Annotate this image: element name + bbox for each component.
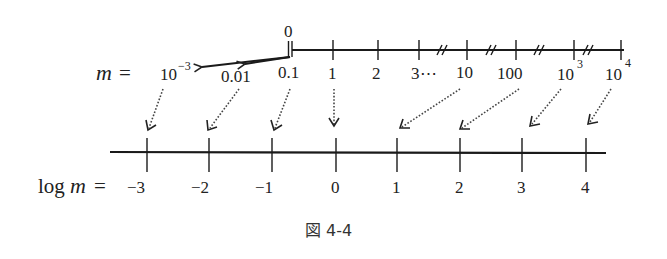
bottom-axis-log-m: log m = −3 −2 −1 0 1 2 3 4 xyxy=(38,138,606,198)
label-0: 0 xyxy=(331,178,340,197)
label-0.01: 0.01 xyxy=(221,67,251,86)
figure-caption: 図 4-4 xyxy=(305,221,352,240)
log-label: log xyxy=(38,174,65,198)
dotted-arrow xyxy=(402,89,460,127)
label-3: 3 xyxy=(517,178,526,197)
dotted-arrow xyxy=(210,89,239,128)
label-1e-3-exp: −3 xyxy=(178,59,191,73)
arrowhead-icon xyxy=(588,114,598,124)
label-neg1: −1 xyxy=(255,178,273,197)
label-1: 1 xyxy=(328,64,337,83)
dotted-arrow xyxy=(462,89,519,128)
log-m-label: m xyxy=(70,173,86,198)
label-4: 4 xyxy=(581,178,590,197)
top-axis-m: 0 m = 10 −3 0.01 0.1 1 2 3⋯ 10 100 10 3 … xyxy=(96,22,631,86)
label-1e3: 10 xyxy=(557,65,574,84)
label-neg2: −2 xyxy=(191,178,209,197)
label-1e4-exp: 4 xyxy=(625,56,631,70)
dotted-arrow xyxy=(532,89,561,124)
label-1: 1 xyxy=(392,178,401,197)
arrowhead-icon xyxy=(329,118,339,126)
dotted-arrow xyxy=(275,89,290,128)
mapping-arrows xyxy=(146,89,611,130)
label-neg3: −3 xyxy=(127,178,145,197)
log-scale-diagram: 0 m = 10 −3 0.01 0.1 1 2 3⋯ 10 100 10 3 … xyxy=(0,0,667,259)
origin-label: 0 xyxy=(284,22,293,41)
label-3-ellipsis: 3⋯ xyxy=(411,64,437,83)
label-100: 100 xyxy=(497,64,523,83)
m-label: m xyxy=(96,60,112,85)
dotted-arrow xyxy=(590,89,611,122)
log-equals-sign: = xyxy=(94,174,106,198)
equals-sign: = xyxy=(119,61,131,85)
label-1e4: 10 xyxy=(605,65,622,84)
label-2: 2 xyxy=(455,178,464,197)
label-1e3-exp: 3 xyxy=(577,57,583,71)
bottom-axis-line xyxy=(110,152,606,153)
dotted-arrow xyxy=(149,89,163,128)
label-0.1: 0.1 xyxy=(278,63,299,82)
label-10: 10 xyxy=(456,63,473,82)
label-2: 2 xyxy=(372,64,381,83)
label-1e-3: 10 xyxy=(160,65,177,84)
